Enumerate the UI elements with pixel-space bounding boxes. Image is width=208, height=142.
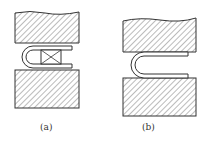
upper-die-b [123,18,196,52]
lower-die-b [123,78,196,116]
crossed-box-insert [41,50,61,64]
label-b: (b) [142,122,155,132]
upper-die-a [15,12,79,44]
diagram-canvas [0,0,208,142]
u-bend-b [131,52,188,78]
panel-a [15,12,79,109]
label-a: (a) [40,122,52,132]
lower-die-a [15,70,79,108]
panel-b [123,18,196,116]
